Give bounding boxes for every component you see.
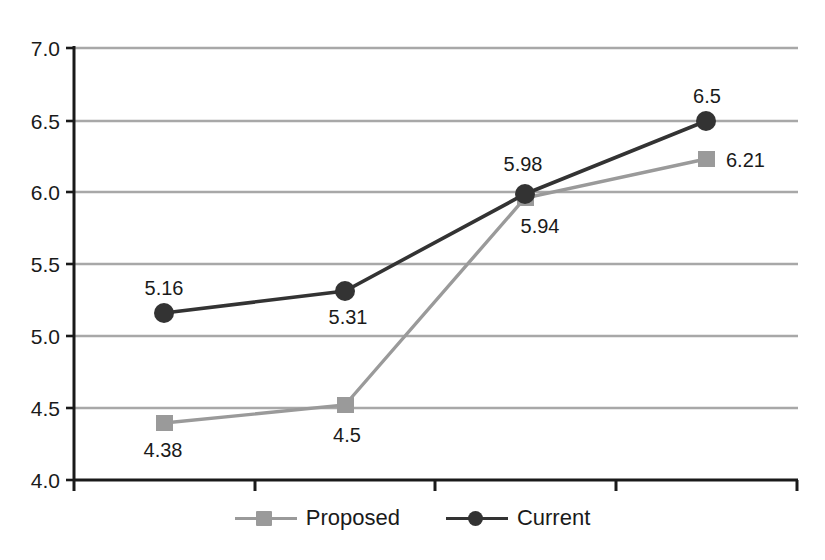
data-label-proposed-1: 4.38 bbox=[144, 440, 183, 460]
legend-item-proposed[interactable]: Proposed bbox=[235, 507, 400, 529]
legend-swatch-current bbox=[446, 509, 508, 527]
data-label-current-3: 5.98 bbox=[504, 154, 543, 174]
data-label-proposed-3: 5.94 bbox=[521, 216, 560, 236]
y-axis bbox=[66, 46, 74, 481]
data-label-current-1: 5.16 bbox=[145, 278, 184, 298]
series-current bbox=[154, 111, 716, 323]
series-proposed-line bbox=[164, 159, 706, 423]
legend-label-current: Current bbox=[517, 507, 590, 529]
legend-label-proposed: Proposed bbox=[306, 507, 400, 529]
legend-swatch-proposed bbox=[235, 509, 297, 527]
series-current-marker-1 bbox=[154, 303, 174, 323]
data-label-proposed-4: 6.21 bbox=[726, 150, 765, 170]
circle-marker-icon bbox=[468, 511, 483, 526]
square-marker-icon bbox=[256, 511, 272, 526]
data-label-current-2: 5.31 bbox=[329, 307, 368, 327]
gridlines bbox=[74, 48, 798, 408]
series-current-line bbox=[164, 121, 706, 313]
data-label-proposed-2: 4.5 bbox=[333, 425, 361, 445]
series-proposed-marker-2 bbox=[337, 397, 354, 413]
data-label-current-4: 6.5 bbox=[693, 86, 721, 106]
plot-area bbox=[0, 0, 825, 560]
series-proposed-marker-4 bbox=[698, 151, 715, 167]
x-axis bbox=[74, 480, 798, 491]
series-current-marker-3 bbox=[515, 184, 535, 204]
legend-item-current[interactable]: Current bbox=[446, 507, 590, 529]
chart-legend: Proposed Current bbox=[0, 500, 825, 536]
series-proposed-marker-1 bbox=[156, 415, 173, 431]
series-current-marker-2 bbox=[335, 281, 355, 301]
series-current-marker-4 bbox=[696, 111, 716, 131]
chart-container: 7.0 6.5 6.0 5.5 5.0 4.5 4.0 bbox=[0, 0, 825, 560]
